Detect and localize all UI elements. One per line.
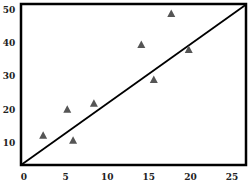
y-tick-label: 10 — [3, 138, 16, 148]
y-tick-label: 30 — [3, 71, 16, 81]
y-tick-label: 50 — [3, 5, 16, 15]
scatter-chart: 0510152025 1020304050 — [0, 0, 250, 189]
x-tick-label: 20 — [184, 172, 197, 182]
x-tick-label: 15 — [143, 172, 156, 182]
x-tick-label: 5 — [62, 172, 68, 182]
x-axis-ticks: 0510152025 — [21, 172, 238, 182]
y-tick-label: 20 — [3, 105, 16, 115]
y-axis-ticks: 1020304050 — [3, 5, 16, 148]
x-tick-label: 0 — [21, 172, 27, 182]
x-tick-label: 10 — [101, 172, 114, 182]
y-tick-label: 40 — [3, 38, 16, 48]
x-tick-label: 25 — [226, 172, 239, 182]
